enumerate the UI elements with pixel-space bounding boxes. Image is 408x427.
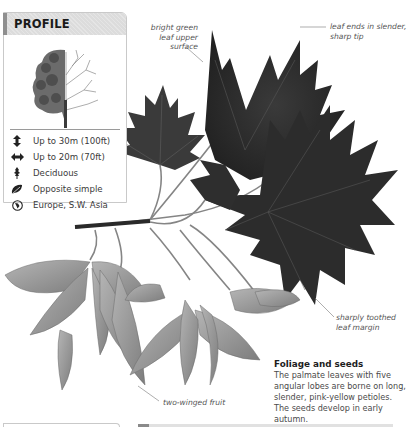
tree-profile-image bbox=[26, 40, 106, 128]
width-arrow-icon bbox=[10, 151, 24, 163]
callout-line: surface bbox=[138, 42, 198, 52]
profile-fact-height: Up to 30m (100ft) bbox=[10, 133, 110, 149]
callout-line: sharply toothed bbox=[336, 313, 408, 323]
globe-icon bbox=[10, 199, 24, 211]
callout-line: leaf margin bbox=[336, 323, 408, 333]
foliage-caption: Foliage and seeds The palmate leaves wit… bbox=[274, 359, 408, 425]
profile-fact-label: Opposite simple bbox=[33, 184, 103, 194]
profile-fact-spread: Up to 20m (70ft) bbox=[10, 149, 110, 165]
callout-line: leaf upper bbox=[138, 33, 198, 43]
callout-leaf-tip: leaf ends in slender, sharp tip bbox=[330, 22, 408, 41]
callout-line: sharp tip bbox=[330, 32, 408, 42]
profile-fact-label: Up to 20m (70ft) bbox=[33, 152, 105, 162]
profile-panel: PROFILE Up to 30m (100ft) Up to 20 bbox=[3, 12, 127, 203]
caption-title: Foliage and seeds bbox=[274, 359, 408, 370]
height-arrow-icon bbox=[10, 135, 24, 147]
leaf-arrangement-icon bbox=[10, 183, 24, 195]
profile-fact-label: Deciduous bbox=[33, 168, 78, 178]
callout-bright-green-surface: bright green leaf upper surface bbox=[138, 23, 198, 52]
profile-fact-distribution: Europe, S.W. Asia bbox=[10, 197, 110, 213]
profile-fact-leaf-type: Deciduous bbox=[10, 165, 110, 181]
callout-line: bright green bbox=[138, 23, 198, 33]
profile-title: PROFILE bbox=[14, 17, 70, 31]
profile-fact-label: Up to 30m (100ft) bbox=[33, 136, 110, 146]
deciduous-leaf-icon bbox=[10, 167, 24, 179]
profile-fact-label: Europe, S.W. Asia bbox=[33, 200, 108, 210]
callout-two-winged-fruit: two-winged fruit bbox=[163, 398, 243, 408]
callout-line: leaf ends in slender, bbox=[330, 22, 408, 32]
profile-divider bbox=[10, 129, 120, 130]
caption-body: The palmate leaves with five angular lob… bbox=[274, 370, 408, 425]
profile-header: PROFILE bbox=[4, 13, 126, 35]
profile-fact-arrangement: Opposite simple bbox=[10, 181, 110, 197]
callout-leaf-margin: sharply toothed leaf margin bbox=[336, 313, 408, 332]
profile-facts-list: Up to 30m (100ft) Up to 20m (70ft) Decid… bbox=[10, 133, 110, 213]
next-panel-edge bbox=[3, 423, 120, 427]
